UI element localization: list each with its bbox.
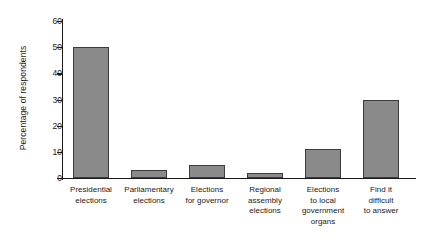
y-tick-label: 10 — [53, 147, 62, 157]
bar-chart: Percentage of respondents 0102030405060 … — [0, 0, 429, 242]
bar — [189, 165, 225, 178]
bar — [73, 47, 109, 178]
x-axis-line — [62, 178, 416, 179]
category-label: Find it difficult to answer — [352, 185, 410, 217]
y-tick-label: 50 — [53, 42, 62, 52]
plot-area — [62, 21, 410, 178]
category-label: Elections to local government organs — [294, 185, 352, 227]
y-tick-label: 40 — [53, 68, 62, 78]
category-label: Regional assembly elections — [236, 185, 294, 217]
y-tick-label: 30 — [53, 95, 62, 105]
bar — [247, 173, 283, 178]
y-tick-label: 0 — [57, 173, 62, 183]
bar — [305, 149, 341, 178]
y-axis-title: Percentage of respondents — [18, 18, 28, 178]
bar — [131, 170, 167, 178]
category-label: Parliamentary elections — [120, 185, 178, 206]
category-label: Presidential elections — [62, 185, 120, 206]
y-tick-label: 60 — [53, 16, 62, 26]
bar — [363, 100, 399, 179]
y-tick-label: 20 — [53, 121, 62, 131]
category-label: Elections for governor — [178, 185, 236, 206]
